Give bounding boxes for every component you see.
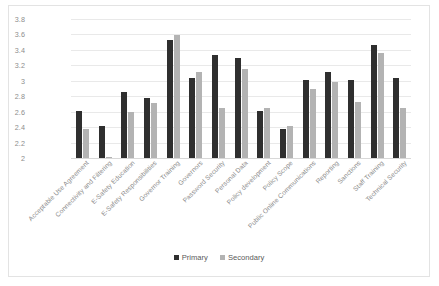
bar-group	[94, 19, 117, 158]
bar-group	[139, 19, 162, 158]
bar-secondary	[174, 35, 180, 158]
chart-figure: 3.83.63.43.232.82.62.42.22 Acceptable Us…	[8, 5, 430, 277]
bar-secondary	[242, 69, 248, 158]
y-axis-tick-label: 3	[0, 76, 25, 85]
x-axis-tick-label: Technical Security	[364, 159, 408, 203]
bar-group	[343, 19, 366, 158]
y-axis-tick-label: 2.8	[0, 92, 25, 101]
x-axis-tick-label: Password Security	[182, 159, 227, 204]
y-axis-tick-label: 2.4	[0, 123, 25, 132]
legend-swatch-icon	[220, 255, 225, 260]
bar-primary	[212, 55, 218, 158]
bar-primary	[235, 58, 241, 158]
bar-secondary	[196, 72, 202, 158]
bar-secondary	[332, 82, 338, 158]
bar-group	[184, 19, 207, 158]
bar-secondary	[151, 103, 157, 158]
legend-item: Primary	[174, 253, 208, 262]
y-axis-tick-label: 2	[0, 154, 25, 163]
x-axis-tick-label: Governor Training	[137, 159, 180, 202]
bar-group	[71, 19, 94, 158]
bar-secondary	[287, 126, 293, 158]
legend-label: Primary	[182, 253, 208, 262]
bar-primary	[303, 80, 309, 158]
bar-secondary	[106, 157, 112, 158]
bar-group	[320, 19, 343, 158]
bar-secondary	[264, 108, 270, 158]
bar-primary	[99, 126, 105, 158]
y-axis-tick-label: 3.6	[0, 30, 25, 39]
bar-primary	[348, 80, 354, 158]
y-axis-tick-label: 3.2	[0, 61, 25, 70]
legend-item: Secondary	[220, 253, 264, 262]
bar-secondary	[378, 53, 384, 158]
bar-primary	[167, 40, 173, 158]
plot-area	[71, 19, 411, 158]
bar-group	[388, 19, 411, 158]
bar-secondary	[128, 112, 134, 158]
bar-secondary	[219, 108, 225, 158]
y-axis-tick-label: 2.2	[0, 138, 25, 147]
bar-secondary	[400, 108, 406, 158]
bar-primary	[257, 111, 263, 158]
bar-group	[275, 19, 298, 158]
bar-group	[207, 19, 230, 158]
bar-group	[116, 19, 139, 158]
chart-legend: PrimarySecondary	[9, 253, 429, 262]
bar-group	[162, 19, 185, 158]
bar-primary	[371, 45, 377, 158]
legend-label: Secondary	[228, 253, 264, 262]
bar-secondary	[355, 102, 361, 158]
bar-group	[298, 19, 321, 158]
bar-primary	[76, 111, 82, 158]
bar-primary	[144, 98, 150, 158]
y-axis-tick-label: 3.4	[0, 45, 25, 54]
gridline	[71, 158, 411, 159]
legend-swatch-icon	[174, 255, 179, 260]
bar-secondary	[83, 129, 89, 158]
y-axis-tick-label: 3.8	[0, 15, 25, 24]
bar-primary	[121, 92, 127, 158]
bar-groups	[71, 19, 411, 158]
bar-primary	[280, 129, 286, 158]
bar-group	[366, 19, 389, 158]
y-axis-tick-label: 2.6	[0, 107, 25, 116]
bar-group	[230, 19, 253, 158]
bar-primary	[189, 78, 195, 158]
bar-primary	[393, 78, 399, 158]
bar-secondary	[310, 89, 316, 159]
bar-group	[252, 19, 275, 158]
bar-primary	[325, 72, 331, 158]
